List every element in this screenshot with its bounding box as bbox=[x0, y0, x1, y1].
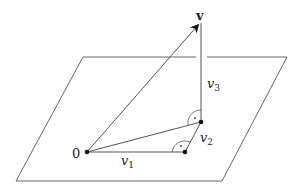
label-v2: v2 bbox=[200, 130, 213, 147]
plane-left-edge bbox=[16, 57, 83, 181]
point-p2 bbox=[199, 120, 204, 125]
segment-v2 bbox=[185, 122, 201, 152]
label-origin: 0 bbox=[72, 146, 80, 161]
label-v1: v1 bbox=[121, 153, 134, 170]
diagram-canvas: v 0 v1 v2 v3 bbox=[0, 0, 301, 189]
label-v3: v3 bbox=[207, 76, 220, 93]
vector-decomposition-diagram: v 0 v1 v2 v3 bbox=[0, 0, 301, 189]
label-v: v bbox=[195, 8, 204, 23]
plane-right-edge bbox=[222, 57, 287, 181]
vector-v-arrow bbox=[87, 25, 198, 152]
plane bbox=[16, 57, 287, 181]
point-p1 bbox=[183, 150, 188, 155]
origin-point bbox=[85, 150, 90, 155]
right-angle-marker-p1 bbox=[172, 141, 190, 152]
segment-origin-to-p2 bbox=[87, 122, 201, 152]
